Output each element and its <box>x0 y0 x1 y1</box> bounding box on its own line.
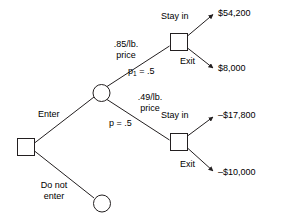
do-not-enter-line-1: Do not <box>41 180 68 190</box>
branch-label-lower-exit: Exit <box>180 159 195 170</box>
lower-price-line-2: price <box>140 103 160 113</box>
branch-label-upper-exit: Exit <box>180 56 195 67</box>
branch-label-upper-stay-in: Stay in <box>161 11 189 22</box>
do-not-enter-terminal-node <box>94 195 111 212</box>
do-not-enter-line-2: enter <box>44 191 65 201</box>
decision-tree-diagram: Enter Do not enter .85/lb. price p1 = .5… <box>0 0 281 223</box>
payoff-lower-stay-in: –$17,800 <box>218 110 256 121</box>
payoff-lower-exit: –$10,000 <box>218 167 256 178</box>
branch-lower-stay-in-arrow <box>188 117 214 136</box>
upper-probability-value: = .5 <box>137 66 155 76</box>
upper-probability-subscript: 1 <box>133 70 137 77</box>
branch-label-do-not-enter: Do not enter <box>26 180 82 202</box>
lower-price-line-1: .49/lb. <box>138 92 163 102</box>
branch-enter-line <box>35 97 95 143</box>
branch-label-lower-probability: p = .5 <box>109 118 132 129</box>
lower-decision-node <box>171 134 188 151</box>
upper-price-line-1: .85/lb. <box>114 39 139 49</box>
upper-decision-node <box>171 34 188 51</box>
branch-label-upper-price: .85/lb. price <box>104 39 148 61</box>
payoff-upper-stay-in: $54,200 <box>218 8 251 19</box>
branch-upper-stay-in-arrow <box>188 15 214 37</box>
branch-label-enter: Enter <box>38 109 60 120</box>
root-decision-node <box>18 139 35 156</box>
chance-node <box>93 85 110 102</box>
upper-price-line-2: price <box>116 50 136 60</box>
branch-label-upper-probability: p1 = .5 <box>128 66 154 77</box>
branch-label-lower-stay-in: Stay in <box>161 110 189 121</box>
payoff-upper-exit: $8,000 <box>218 63 246 74</box>
